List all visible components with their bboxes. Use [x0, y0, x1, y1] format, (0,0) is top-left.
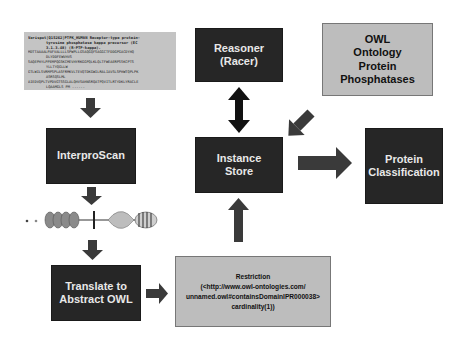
arrow-up-icon: [228, 198, 249, 242]
protein-domain-architecture-icon: [26, 211, 157, 229]
arrow-right-icon: [298, 147, 352, 179]
arrow-down-icon: [82, 240, 103, 260]
arrow-down-icon: [81, 187, 102, 205]
diagram-connectors: [0, 0, 465, 346]
arrow-diagonal-icon: [281, 105, 319, 143]
double-arrow-icon: [228, 87, 250, 133]
arrow-down-icon: [80, 98, 101, 118]
arrow-right-icon: [146, 283, 168, 304]
